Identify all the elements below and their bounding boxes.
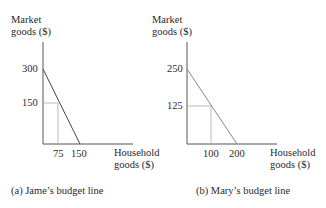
chart-b-budget-line — [187, 69, 237, 144]
chart-a-budget-line — [43, 69, 80, 144]
chart-plot-area — [0, 0, 326, 208]
